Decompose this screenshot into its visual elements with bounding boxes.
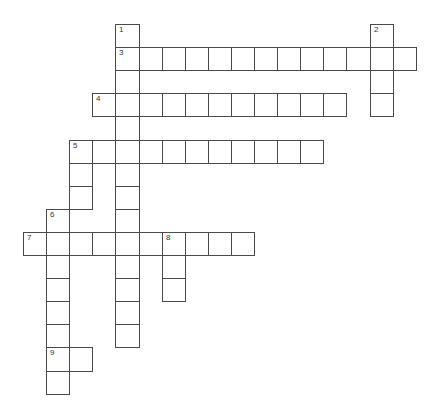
- crossword-cell[interactable]: [115, 163, 140, 187]
- crossword-cell[interactable]: [185, 93, 209, 117]
- crossword-cell[interactable]: [162, 140, 186, 164]
- crossword-cell[interactable]: [46, 278, 70, 302]
- crossword-cell[interactable]: [92, 140, 116, 164]
- crossword-cell[interactable]: [69, 186, 93, 210]
- crossword-cell[interactable]: 3: [115, 47, 140, 71]
- clue-number: 7: [27, 234, 31, 242]
- crossword-cell[interactable]: 9: [46, 347, 70, 372]
- clue-number: 2: [374, 26, 378, 34]
- crossword-cell[interactable]: [323, 93, 347, 117]
- crossword-cell[interactable]: [277, 140, 301, 164]
- crossword-cell[interactable]: [115, 116, 140, 141]
- crossword-cell[interactable]: [69, 347, 93, 372]
- crossword-cell[interactable]: [162, 255, 186, 279]
- crossword-cell[interactable]: [185, 232, 209, 256]
- crossword-cell[interactable]: [115, 255, 140, 279]
- crossword-cell[interactable]: [139, 232, 163, 256]
- crossword-cell[interactable]: [300, 47, 324, 71]
- crossword-cell[interactable]: [254, 140, 278, 164]
- crossword-cell[interactable]: [254, 47, 278, 71]
- crossword-cell[interactable]: [300, 93, 324, 117]
- crossword-cell[interactable]: [393, 47, 417, 71]
- crossword-cell[interactable]: [162, 278, 186, 302]
- crossword-cell[interactable]: [115, 324, 140, 348]
- crossword-cell[interactable]: [254, 93, 278, 117]
- crossword-cell[interactable]: [46, 232, 70, 256]
- crossword-cell[interactable]: [115, 232, 140, 256]
- crossword-cell[interactable]: [115, 186, 140, 210]
- clue-number: 4: [96, 95, 100, 103]
- clue-number: 5: [73, 142, 77, 150]
- clue-number: 9: [50, 349, 54, 357]
- crossword-cell[interactable]: [370, 70, 394, 94]
- crossword-cell[interactable]: [139, 47, 163, 71]
- crossword-cell[interactable]: [139, 93, 163, 117]
- crossword-cell[interactable]: [231, 140, 255, 164]
- crossword-cell[interactable]: [69, 232, 93, 256]
- clue-number: 6: [50, 211, 54, 219]
- clue-number: 1: [119, 26, 123, 34]
- crossword-cell[interactable]: [185, 140, 209, 164]
- crossword-cell[interactable]: [277, 47, 301, 71]
- crossword-cell[interactable]: [162, 47, 186, 71]
- crossword-cell[interactable]: [208, 47, 232, 71]
- crossword-cell[interactable]: [208, 140, 232, 164]
- crossword-cell[interactable]: [346, 47, 371, 71]
- crossword-cell[interactable]: [231, 47, 255, 71]
- crossword-cell[interactable]: [115, 93, 140, 117]
- crossword-cell[interactable]: 7: [23, 232, 47, 256]
- crossword-cell[interactable]: [115, 209, 140, 233]
- crossword-cell[interactable]: [370, 93, 394, 117]
- crossword-cell[interactable]: 5: [69, 140, 93, 164]
- crossword-cell[interactable]: [323, 47, 347, 71]
- crossword-cell[interactable]: [46, 324, 70, 348]
- crossword-cell[interactable]: [231, 232, 255, 256]
- crossword-cell[interactable]: [208, 232, 232, 256]
- crossword-cell[interactable]: [46, 301, 70, 325]
- crossword-cell[interactable]: [115, 140, 140, 164]
- crossword-cell[interactable]: [300, 140, 324, 164]
- clue-number: 3: [119, 49, 123, 57]
- crossword-cell[interactable]: [185, 47, 209, 71]
- crossword-cell[interactable]: [92, 232, 116, 256]
- crossword-grid: 132456978: [0, 0, 434, 416]
- crossword-cell[interactable]: [115, 278, 140, 302]
- crossword-cell[interactable]: [69, 163, 93, 187]
- crossword-cell[interactable]: [115, 301, 140, 325]
- crossword-cell[interactable]: [46, 371, 70, 395]
- crossword-cell[interactable]: [231, 93, 255, 117]
- crossword-cell[interactable]: [115, 70, 140, 94]
- crossword-cell[interactable]: 6: [46, 209, 70, 233]
- crossword-cell[interactable]: [208, 93, 232, 117]
- crossword-cell[interactable]: 1: [115, 24, 140, 48]
- crossword-cell[interactable]: 8: [162, 232, 186, 256]
- crossword-cell[interactable]: 4: [92, 93, 116, 117]
- crossword-cell[interactable]: [139, 140, 163, 164]
- crossword-cell[interactable]: [162, 93, 186, 117]
- clue-number: 8: [166, 234, 170, 242]
- crossword-cell[interactable]: [277, 93, 301, 117]
- crossword-cell[interactable]: [370, 47, 394, 71]
- crossword-cell[interactable]: 2: [370, 24, 394, 48]
- crossword-cell[interactable]: [46, 255, 70, 279]
